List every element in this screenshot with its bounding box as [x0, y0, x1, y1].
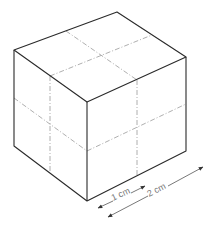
arrow-1cm-left	[98, 201, 113, 208]
arrow-2cm-right	[168, 167, 203, 186]
right-horizontal-midline	[87, 104, 186, 151]
outline	[14, 50, 186, 201]
dimension-1cm: 1 cm	[98, 186, 145, 208]
arrow-1cm-right	[131, 186, 145, 193]
left-horizontal-midline	[14, 98, 87, 151]
cube-diagram: 1 cm 2 cm	[0, 0, 214, 229]
top-midline-b	[50, 35, 152, 76]
label-2cm: 2 cm	[145, 181, 167, 199]
cube-svg: 1 cm 2 cm	[0, 0, 214, 229]
subdivision-lines	[14, 31, 186, 176]
top-face	[14, 12, 186, 102]
top-midline-a	[66, 31, 137, 80]
cube-edges	[14, 12, 186, 201]
